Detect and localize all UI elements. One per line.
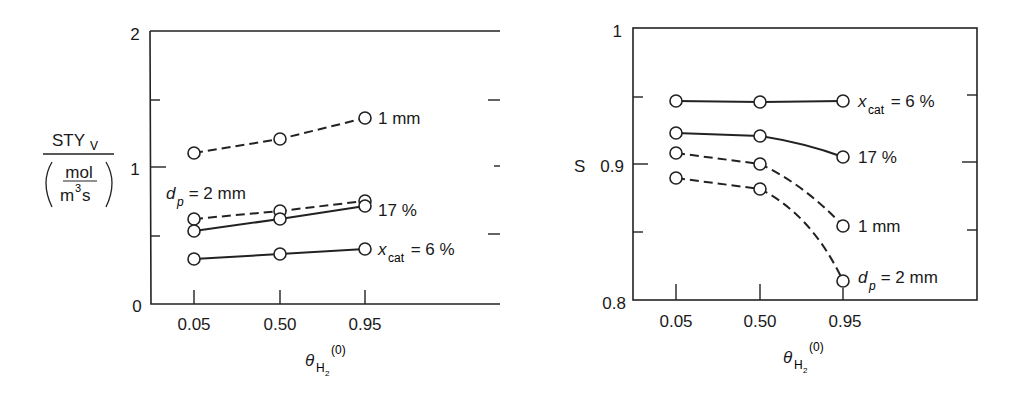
svg-text:STY: STY	[52, 131, 85, 150]
right-y-tick-08: 0.8	[602, 294, 626, 313]
right-y-tick-1: 1	[613, 22, 622, 41]
svg-text:(0): (0)	[331, 343, 346, 357]
left-y-ticks	[151, 100, 500, 236]
svg-text:H: H	[316, 361, 325, 375]
svg-text:2: 2	[803, 366, 808, 375]
left-x-tick-005: 0.05	[177, 315, 210, 334]
svg-text:= 6 %: = 6 %	[406, 240, 455, 259]
data-point	[359, 243, 371, 255]
svg-text:= 2 mm: = 2 mm	[876, 268, 938, 287]
data-point	[837, 151, 849, 163]
left-x-tick-050: 0.50	[263, 315, 296, 334]
data-point	[670, 127, 682, 139]
data-point	[670, 172, 682, 184]
data-point	[274, 248, 286, 260]
left-x-axis-label: θ H 2 (0)	[305, 343, 346, 378]
figure: 2 1 0 0.05 0.50 0.95 θ H 2 (0) STY V mol…	[0, 0, 1011, 399]
data-point	[670, 147, 682, 159]
data-point	[837, 275, 849, 287]
svg-text:d: d	[858, 268, 868, 287]
right-plot-frame	[633, 28, 977, 300]
right-chart: 1 0.9 0.8 S 0.05 0.50 0.95 θ H 2 (0) x c…	[574, 22, 977, 375]
right-x-tick-050: 0.50	[743, 312, 776, 331]
data-point	[188, 213, 200, 225]
data-point	[754, 130, 766, 142]
svg-text:cat: cat	[388, 251, 405, 265]
left-y-tick-2: 2	[130, 25, 139, 44]
svg-text:θ: θ	[783, 348, 793, 367]
svg-text:x: x	[377, 240, 387, 259]
svg-text:θ: θ	[305, 351, 315, 370]
svg-text:= 2 mm: = 2 mm	[184, 184, 246, 203]
left-label-6pct: x cat = 6 %	[377, 240, 455, 265]
left-series-1mm: 1 mm	[188, 109, 421, 159]
data-point	[837, 95, 849, 107]
svg-text:d: d	[166, 184, 176, 203]
data-point	[754, 96, 766, 108]
left-y-axis-label: STY V mol m 3 s	[43, 131, 114, 207]
right-series-6pct: x cat = 6 %	[670, 92, 935, 117]
left-y-tick-1: 1	[130, 160, 139, 179]
svg-text:3: 3	[75, 182, 81, 194]
data-point	[754, 183, 766, 195]
data-point	[754, 158, 766, 170]
left-x-tick-095: 0.95	[348, 315, 381, 334]
left-series-2mm: d p = 2 mm	[166, 184, 371, 225]
svg-text:2: 2	[325, 369, 330, 378]
svg-text:s: s	[82, 186, 91, 205]
svg-text:H: H	[794, 358, 803, 372]
right-series-17pct: 17 %	[670, 127, 897, 167]
right-label-1mm: 1 mm	[858, 217, 901, 236]
svg-text:m: m	[60, 186, 74, 205]
right-label-17pct: 17 %	[858, 148, 897, 167]
data-point	[274, 213, 286, 225]
right-y-axis-label: S	[574, 157, 585, 176]
right-y-tick-09: 0.9	[600, 157, 624, 176]
right-x-ticks	[676, 284, 843, 300]
left-plot-frame	[150, 31, 500, 304]
svg-text:p: p	[868, 279, 876, 293]
data-point	[188, 147, 200, 159]
left-x-ticks	[194, 290, 365, 304]
svg-text:cat: cat	[868, 103, 885, 117]
right-x-tick-095: 0.95	[828, 312, 861, 331]
svg-text:p: p	[176, 195, 184, 209]
svg-text:= 6 %: = 6 %	[886, 92, 935, 111]
left-series-6pct: x cat = 6 %	[188, 240, 455, 265]
right-x-axis-label: θ H 2 (0)	[783, 340, 824, 375]
left-series-17pct: 17 %	[188, 200, 417, 237]
data-point	[837, 220, 849, 232]
data-point	[188, 225, 200, 237]
data-point	[670, 95, 682, 107]
right-label-6pct: x cat = 6 %	[857, 92, 935, 117]
svg-text:mol: mol	[65, 163, 92, 182]
svg-text:x: x	[857, 92, 867, 111]
left-label-1mm: 1 mm	[378, 109, 421, 128]
data-point	[359, 200, 371, 212]
right-x-tick-005: 0.05	[659, 312, 692, 331]
svg-text:(0): (0)	[809, 340, 824, 354]
svg-text:V: V	[90, 139, 98, 153]
data-point	[359, 112, 371, 124]
left-chart: 2 1 0 0.05 0.50 0.95 θ H 2 (0) STY V mol…	[43, 25, 500, 378]
right-label-2mm: d p = 2 mm	[858, 268, 938, 293]
left-y-tick-0: 0	[132, 297, 141, 316]
data-point	[188, 253, 200, 265]
data-point	[274, 133, 286, 145]
right-y-ticks	[633, 95, 977, 232]
left-label-17pct: 17 %	[378, 201, 417, 220]
left-label-2mm: d p = 2 mm	[166, 184, 246, 209]
